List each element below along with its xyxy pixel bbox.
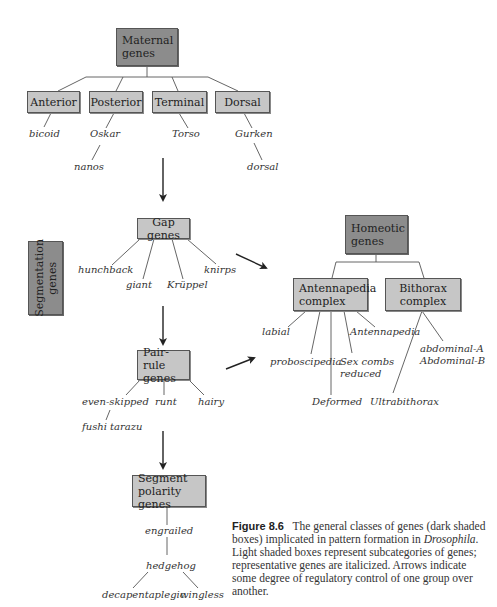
box-label: Dorsal xyxy=(224,96,260,109)
box-label: Posterior xyxy=(91,96,142,109)
gene-sex-combs-reduced-1: Sex combs xyxy=(340,356,394,368)
box-posterior: Posterior xyxy=(89,91,143,113)
gene-wingless: wingless xyxy=(180,589,224,601)
box-label: Pair-rule genes xyxy=(143,346,189,385)
gene-abdominal-a: abdominal-A xyxy=(420,343,484,355)
gene-dorsal: dorsal xyxy=(247,161,279,173)
gene-antennapedia: Antennapedia xyxy=(350,326,420,338)
box-label: Anterior xyxy=(30,96,77,109)
box-label: Gap genes xyxy=(138,216,189,242)
gene-hunchback: hunchback xyxy=(78,264,133,276)
caption-organism: Drosophila xyxy=(424,533,476,545)
figure-caption: Figure 8.6 The general classes of genes … xyxy=(232,520,492,598)
gene-ultrabithorax: Ultrabithorax xyxy=(370,396,439,408)
gene-proboscipedia: proboscipedia xyxy=(270,356,341,368)
box-label: Bithorax complex xyxy=(386,282,460,308)
box-label: Maternal genes xyxy=(122,34,177,60)
box-antennapedia-complex: Antennapedia complex xyxy=(293,278,368,311)
box-terminal: Terminal xyxy=(152,91,207,113)
box-dorsal: Dorsal xyxy=(215,91,270,113)
gene-decapentaplegic: decapentaplegic xyxy=(102,589,185,601)
gene-sex-combs-reduced-2: reduced xyxy=(340,368,381,380)
gene-nanos: nanos xyxy=(74,161,104,173)
box-label: Terminal xyxy=(155,96,204,109)
figure-canvas: Maternal genes Anterior Posterior Termin… xyxy=(0,0,497,607)
box-segment-polarity-genes: Segment polarity genes xyxy=(132,475,206,507)
gene-bicoid: bicoid xyxy=(29,128,60,140)
gene-fushi-tarazu: fushi tarazu xyxy=(82,421,143,433)
gene-torso: Torso xyxy=(172,128,200,140)
caption-label: Figure 8.6 xyxy=(232,520,284,532)
box-pair-rule-genes: Pair-rule genes xyxy=(137,350,190,380)
gene-deformed: Deformed xyxy=(312,396,362,408)
box-gap-genes: Gap genes xyxy=(137,218,190,239)
box-label: Segmentation genes xyxy=(33,239,59,317)
gene-knirps: knirps xyxy=(204,264,236,276)
gene-hairy: hairy xyxy=(198,396,224,408)
gene-kruppel: Krüppel xyxy=(167,279,208,291)
box-segmentation-genes: Segmentation genes xyxy=(28,241,63,315)
box-label: Homeotic genes xyxy=(351,222,407,248)
gene-hedgehog: hedgehog xyxy=(146,560,196,572)
box-label: Segment polarity genes xyxy=(138,472,205,511)
box-bithorax-complex: Bithorax complex xyxy=(385,278,461,311)
gene-oskar: Oskar xyxy=(90,128,120,140)
box-maternal-genes: Maternal genes xyxy=(116,28,178,66)
gene-labial: labial xyxy=(262,326,290,338)
gene-giant: giant xyxy=(126,279,152,291)
gene-runt: runt xyxy=(155,396,177,408)
box-anterior: Anterior xyxy=(27,91,80,113)
gene-engrailed: engrailed xyxy=(145,525,193,537)
box-label: Antennapedia complex xyxy=(299,282,376,308)
gene-even-skipped: even-skipped xyxy=(82,396,149,408)
gene-gurken: Gurken xyxy=(235,128,273,140)
gene-abdominal-b: Abdominal-B xyxy=(420,355,485,367)
box-homeotic-genes: Homeotic genes xyxy=(345,215,408,254)
